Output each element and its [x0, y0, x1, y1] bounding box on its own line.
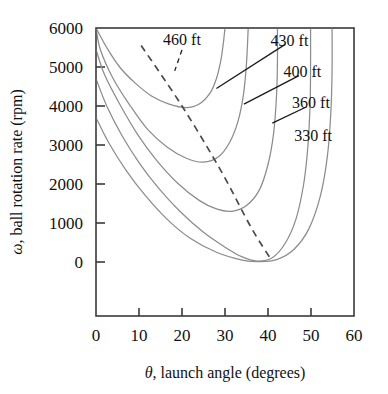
x-tick-label: 60: [346, 326, 363, 345]
chart-svg: 0102030405060 0100020003000400050006000 …: [0, 0, 388, 394]
y-tick-label: 1000: [49, 214, 83, 233]
y-tick-label: 3000: [49, 136, 83, 155]
x-axis-title: θ, launch angle (degrees): [145, 364, 306, 382]
contour-curve-400-ft: [96, 28, 278, 211]
x-tick-label: 50: [303, 326, 320, 345]
optimum-locus-line: [141, 46, 270, 259]
x-tick-label: 40: [260, 326, 277, 345]
x-tick-label: 10: [131, 326, 148, 345]
annotation-360-text: 360 ft: [292, 94, 330, 111]
x-axis-ticks: [139, 308, 311, 316]
x-tick-label: 0: [92, 326, 101, 345]
x-tick-label: 30: [217, 326, 234, 345]
y-tick-label: 2000: [49, 175, 83, 194]
optimum-locus-path: [141, 46, 270, 259]
annotation-430-leader: [216, 44, 285, 88]
y-tick-label: 6000: [49, 19, 83, 38]
x-axis-tick-labels: 0102030405060: [92, 326, 363, 345]
x-tick-label: 20: [174, 326, 191, 345]
annotation-430-text: 430 ft: [271, 32, 309, 49]
annotation-330-text: 330 ft: [294, 127, 332, 144]
y-axis-tick-labels: 0100020003000400050006000: [49, 19, 83, 272]
contour-curve-360-ft: [96, 28, 311, 261]
annotation-460-leader: [175, 50, 182, 71]
y-tick-label: 0: [75, 253, 84, 272]
figure-container: 0102030405060 0100020003000400050006000 …: [0, 0, 388, 394]
contour-curve-430-ft: [96, 28, 248, 162]
annotation-460-text: 460 ft: [163, 31, 201, 48]
y-axis-title: ω, ball rotation rate (rpm): [8, 89, 26, 254]
y-axis-ticks: [96, 67, 105, 262]
y-tick-label: 4000: [49, 97, 83, 116]
annotation-400-text: 400 ft: [284, 63, 322, 80]
y-tick-label: 5000: [49, 58, 83, 77]
